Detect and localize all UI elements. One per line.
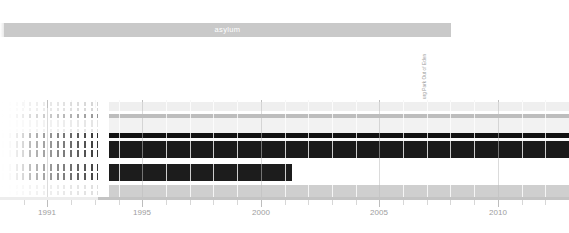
comb-segment: [57, 191, 59, 195]
comb-segment: [84, 102, 86, 106]
comb-segment: [50, 185, 52, 189]
comb-segment: [63, 191, 65, 195]
x-axis: 19911995200020052010: [0, 197, 569, 233]
comb-segment: [43, 185, 45, 189]
comb-segment: [36, 164, 38, 171]
axis-tick: [522, 200, 523, 205]
comb-segment: [43, 164, 45, 171]
comb-column: [70, 100, 72, 197]
comb-segment: [36, 173, 38, 180]
comb-segment: [50, 133, 52, 138]
comb-segment: [77, 120, 79, 127]
comb-segment: [77, 133, 79, 138]
comb-segment: [43, 129, 45, 132]
axis-tick-label: 2005: [370, 208, 388, 217]
comb-segment: [43, 150, 45, 157]
comb-segment: [36, 120, 38, 127]
comb-segment: [57, 150, 59, 157]
axis-tick: [237, 200, 238, 205]
comb-segment: [91, 173, 93, 180]
series-band: [109, 118, 569, 133]
comb-segment: [43, 141, 45, 148]
comb-segment: [57, 141, 59, 148]
comb-segment: [91, 129, 93, 132]
comb-segment: [36, 141, 38, 148]
comb-transition-region: [0, 100, 98, 197]
axis-tick: [166, 200, 167, 205]
comb-segment: [77, 114, 79, 118]
comb-segment: [43, 102, 45, 106]
title-bar: asylum: [4, 23, 451, 37]
series-band: [109, 164, 292, 181]
comb-segment: [97, 191, 98, 195]
comb-segment: [50, 173, 52, 180]
series-band: [109, 141, 569, 158]
comb-segment: [57, 129, 59, 132]
comb-segment: [97, 141, 98, 148]
comb-segment: [50, 108, 52, 111]
comb-segment: [84, 191, 86, 195]
comb-segment: [70, 185, 72, 189]
series-band: [109, 102, 569, 111]
comb-segment: [63, 120, 65, 127]
comb-segment: [63, 108, 65, 111]
comb-segment: [63, 114, 65, 118]
comb-segment: [70, 173, 72, 180]
comb-segment: [91, 191, 93, 195]
comb-segment: [70, 191, 72, 195]
axis-tick: [261, 200, 262, 207]
comb-segment: [43, 108, 45, 111]
comb-segment: [97, 102, 98, 106]
axis-tick: [71, 200, 72, 205]
comb-segment: [63, 102, 65, 106]
comb-segment: [91, 120, 93, 127]
comb-segment: [91, 185, 93, 189]
comb-segment: [50, 129, 52, 132]
axis-rule-left-segment: [0, 197, 98, 200]
comb-segment: [70, 150, 72, 157]
axis-tick: [119, 200, 120, 205]
comb-segment: [50, 114, 52, 118]
comb-segment: [57, 114, 59, 118]
axis-tick: [474, 200, 475, 205]
comb-segment: [50, 141, 52, 148]
comb-segment: [36, 133, 38, 138]
comb-segment: [36, 108, 38, 111]
axis-tick: [213, 200, 214, 205]
comb-segment: [43, 191, 45, 195]
comb-column: [57, 100, 59, 197]
comb-column: [36, 100, 38, 197]
comb-segment: [50, 164, 52, 171]
comb-fade-overlay: [0, 100, 30, 197]
comb-segment: [50, 191, 52, 195]
page-title: asylum: [4, 23, 451, 37]
axis-tick: [285, 200, 286, 205]
comb-column: [97, 100, 98, 197]
comb-segment: [57, 164, 59, 171]
axis-tick: [450, 200, 451, 205]
comb-segment: [84, 173, 86, 180]
comb-segment: [84, 185, 86, 189]
comb-segment: [57, 120, 59, 127]
comb-segment: [57, 108, 59, 111]
comb-segment: [91, 164, 93, 171]
comb-segment: [84, 108, 86, 111]
comb-segment: [43, 120, 45, 127]
comb-segment: [50, 120, 52, 127]
comb-segment: [91, 102, 93, 106]
comb-segment: [63, 141, 65, 148]
comb-segment: [70, 108, 72, 111]
axis-tick: [356, 200, 357, 205]
comb-segment: [70, 133, 72, 138]
axis-tick: [379, 200, 380, 207]
comb-segment: [63, 129, 65, 132]
axis-tick: [47, 200, 48, 207]
comb-segment: [77, 108, 79, 111]
comb-segment: [97, 185, 98, 189]
comb-segment: [91, 114, 93, 118]
axis-tick-label: 2010: [489, 208, 507, 217]
axis-tick: [403, 200, 404, 205]
comb-segment: [70, 129, 72, 132]
comb-segment: [97, 133, 98, 138]
comb-segment: [70, 141, 72, 148]
